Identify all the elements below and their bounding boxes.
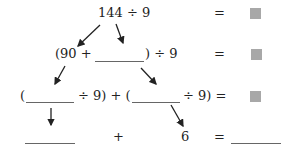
div-plus: ÷ 9) + ( bbox=[78, 89, 131, 103]
open-paren: ( bbox=[20, 89, 25, 103]
answer-square bbox=[251, 49, 262, 60]
arrows-diagram bbox=[0, 0, 292, 154]
answer-square bbox=[250, 91, 261, 102]
equals-sign: = bbox=[214, 6, 225, 20]
answer-square bbox=[250, 8, 261, 19]
blank-input[interactable] bbox=[132, 102, 180, 103]
value-six: 6 bbox=[181, 130, 189, 144]
expression-close: ) ÷ 9 bbox=[145, 47, 178, 61]
expression-open: (90 + bbox=[55, 47, 92, 61]
equals-sign: = bbox=[214, 130, 225, 144]
equals-sign: = bbox=[214, 47, 225, 61]
plus-sign: + bbox=[113, 130, 124, 144]
blank-input[interactable] bbox=[25, 143, 75, 144]
blank-input[interactable] bbox=[95, 61, 144, 62]
expression-144-div-9: 144 ÷ 9 bbox=[98, 6, 150, 20]
div-equals: ÷ 9) = bbox=[183, 89, 226, 103]
blank-input[interactable] bbox=[26, 102, 74, 103]
blank-input[interactable] bbox=[231, 143, 281, 144]
